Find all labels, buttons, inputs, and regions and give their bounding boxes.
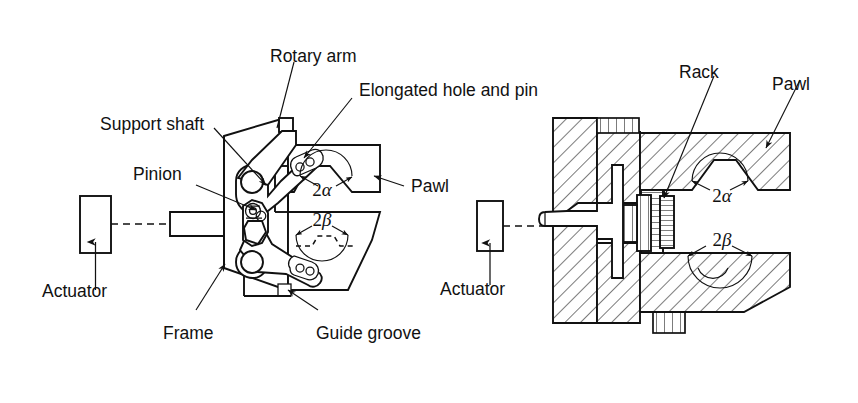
frame-bottom-key bbox=[653, 310, 685, 333]
frame-top-key bbox=[597, 118, 639, 133]
guide-groove-block bbox=[278, 284, 291, 296]
pinion-hub-right bbox=[623, 205, 637, 242]
label-guide-groove: Guide groove bbox=[316, 323, 421, 343]
upper-support-shaft-hole bbox=[241, 171, 263, 193]
label-rotary-arm: Rotary arm bbox=[270, 46, 357, 66]
label-support-shaft: Support shaft bbox=[100, 114, 204, 134]
pinion-gear-right bbox=[637, 195, 651, 251]
mechanism-diagram: 2α 2β Rotary arm Elongated hole and pin … bbox=[0, 0, 858, 403]
label-rack: Rack bbox=[679, 62, 719, 82]
rack-teeth-strip bbox=[660, 196, 674, 248]
label-pawl-left: Pawl bbox=[411, 176, 449, 196]
label-actuator-left: Actuator bbox=[42, 281, 107, 301]
lower-support-shaft-hole bbox=[241, 251, 263, 273]
left-pinion bbox=[243, 200, 268, 246]
label-pinion: Pinion bbox=[133, 164, 182, 184]
label-frame: Frame bbox=[163, 323, 214, 343]
angle-2beta-label: 2β bbox=[313, 209, 333, 230]
figure-canvas: 2α 2β Rotary arm Elongated hole and pin … bbox=[0, 0, 858, 403]
angle-2alpha-label: 2α bbox=[312, 179, 333, 200]
frame-top-tab bbox=[279, 118, 293, 132]
angle-2alpha-label-right: 2α bbox=[712, 185, 733, 206]
label-elongated-hole-and-pin: Elongated hole and pin bbox=[359, 80, 538, 100]
angle-2beta-label-right: 2β bbox=[713, 229, 733, 250]
label-pawl-right: Pawl bbox=[772, 74, 810, 94]
label-actuator-right: Actuator bbox=[440, 279, 505, 299]
